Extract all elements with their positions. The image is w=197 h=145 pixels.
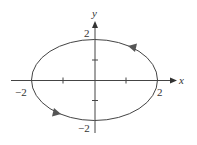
y-axis-label: y [91, 7, 97, 19]
direction-arrow-upper-icon [128, 44, 137, 53]
x-axis-label: x [178, 74, 184, 86]
x-pos-label: 2 [157, 86, 163, 98]
ellipse-diagram: y x 2 −2 −2 2 [0, 0, 197, 145]
y-pos-label: 2 [84, 27, 90, 39]
x-axis-arrow-icon [170, 78, 177, 84]
y-neg-label: −2 [78, 122, 90, 134]
direction-arrow-lower-icon [52, 108, 61, 117]
y-axis-arrow-icon [92, 21, 98, 28]
x-neg-label: −2 [15, 86, 27, 98]
